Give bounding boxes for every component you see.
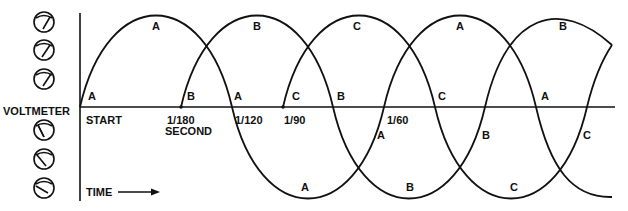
wave-label: B [482, 129, 490, 141]
voltmeter-icon-negative-2 [34, 149, 54, 169]
voltmeter-icon-negative-3 [34, 178, 54, 198]
voltmeter-icon-positive-2 [34, 40, 54, 60]
wave-label: C [353, 20, 361, 32]
tick-label-1-120: 1/120 [235, 114, 263, 126]
wave-label: A [88, 90, 96, 102]
start-label: START [86, 114, 122, 126]
tick-dot-1-180 [179, 105, 183, 109]
three-phase-waveform-diagram: VOLTMETER START 1/180 SECOND 1/120 1/90 … [0, 0, 628, 211]
arrow-right-icon [118, 189, 160, 196]
wave-label: C [292, 90, 300, 102]
wave-label: C [438, 90, 446, 102]
wave-label: B [337, 90, 345, 102]
tick-dot-1-90 [281, 105, 285, 109]
voltmeter-label: VOLTMETER [3, 105, 70, 117]
wave-label: A [152, 20, 160, 32]
wave-label: C [583, 129, 591, 141]
tick-label-second: SECOND [165, 125, 212, 137]
wave-label: C [510, 181, 518, 193]
wave-label: A [456, 20, 464, 32]
wave-label: B [253, 20, 261, 32]
time-label: TIME [86, 186, 112, 198]
wave-label: B [187, 90, 195, 102]
wave-label: A [234, 90, 242, 102]
voltmeter-icon-positive-3 [34, 69, 54, 89]
voltmeter-icon-positive-1 [34, 12, 54, 32]
wave-label: B [559, 20, 567, 32]
wave-label: A [377, 129, 385, 141]
wave-label: A [541, 90, 549, 102]
wave-label: A [301, 181, 309, 193]
tick-label-1-90: 1/90 [284, 114, 305, 126]
wave-label: B [406, 181, 414, 193]
voltmeter-icon-negative-1 [34, 120, 54, 140]
tick-label-1-60: 1/60 [387, 114, 408, 126]
